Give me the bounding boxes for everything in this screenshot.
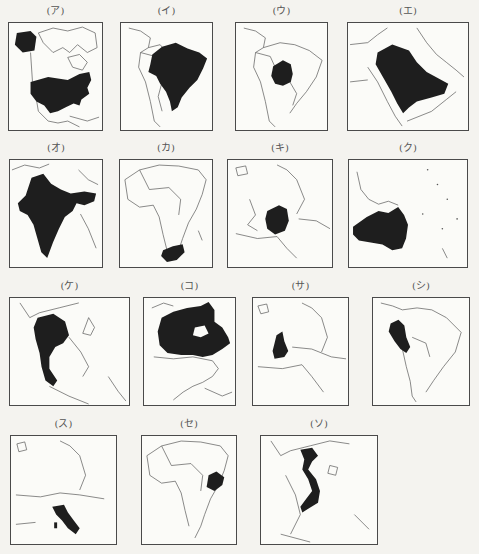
map-arabia-saudi: [347, 22, 469, 131]
map-oceania-australia: [348, 159, 468, 268]
peru-map-icon: [373, 298, 469, 405]
map-panel-ki: (キ): [227, 159, 333, 268]
map-panel-i: (イ): [120, 22, 213, 131]
panel-label: (キ): [227, 139, 333, 154]
south-africa-map-icon: [120, 160, 212, 267]
map-panel-so: (ソ): [260, 435, 378, 545]
panel-label: (サ): [252, 277, 349, 292]
italy-map-icon: [11, 436, 116, 544]
map-africa-ethiopia: [141, 435, 237, 545]
map-panel-su: (ス): [10, 435, 117, 545]
map-europe-germany: [227, 159, 333, 268]
thailand-map-icon: [10, 298, 129, 405]
panel-label: (ス): [10, 415, 117, 430]
panel-label: (カ): [119, 139, 213, 154]
map-southeast-asia-vietnam: [260, 435, 378, 545]
map-south-america-bolivia: [235, 22, 328, 131]
panel-label: (ウ): [235, 2, 328, 17]
panel-label: (シ): [372, 277, 470, 292]
map-panel-e: (エ): [347, 22, 469, 131]
vietnam-map-icon: [261, 436, 377, 544]
panel-label: (ア): [8, 2, 103, 17]
map-panel-sa: (サ): [252, 297, 349, 406]
panel-label: (エ): [347, 2, 469, 17]
canada-map-icon: [144, 298, 235, 405]
panel-label: (オ): [9, 139, 103, 154]
map-south-america-peru: [372, 297, 470, 406]
australia-map-icon: [349, 160, 467, 267]
map-southeast-asia-thailand: [9, 297, 130, 406]
panel-label: (セ): [141, 415, 237, 430]
usa-map-icon: [9, 23, 102, 130]
saudi-arabia-map-icon: [348, 23, 468, 130]
panel-label: (ケ): [9, 277, 130, 292]
panel-label: (ソ): [260, 415, 378, 430]
map-africa-south-africa: [119, 159, 213, 268]
map-south-america-brazil: [120, 22, 213, 131]
panel-label: (ク): [348, 139, 468, 154]
map-panel-ko: (コ): [143, 297, 236, 406]
map-panel-a: (ア): [8, 22, 103, 131]
map-europe-uk: [252, 297, 349, 406]
map-panel-o: (オ): [9, 159, 103, 268]
map-panel-ku: (ク): [348, 159, 468, 268]
map-south-asia-india: [9, 159, 103, 268]
brazil-map-icon: [121, 23, 212, 130]
map-panel-shi: (シ): [372, 297, 470, 406]
india-map-icon: [10, 160, 102, 267]
panel-label: (イ): [120, 2, 213, 17]
germany-map-icon: [228, 160, 332, 267]
map-north-america-usa: [8, 22, 103, 131]
map-panel-u: (ウ): [235, 22, 328, 131]
bolivia-map-icon: [236, 23, 327, 130]
united-kingdom-map-icon: [253, 298, 348, 405]
map-panel-ka: (カ): [119, 159, 213, 268]
map-north-america-canada: [143, 297, 236, 406]
map-europe-italy: [10, 435, 117, 545]
panel-label: (コ): [143, 277, 236, 292]
map-panel-ke: (ケ): [9, 297, 130, 406]
map-panel-se: (セ): [141, 435, 237, 545]
ethiopia-map-icon: [142, 436, 236, 544]
